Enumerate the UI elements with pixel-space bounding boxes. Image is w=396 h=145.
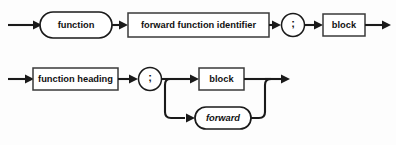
branch-split-rail: [162, 79, 186, 118]
label-block-1: block: [332, 20, 357, 30]
node-forward-function-identifier: forward function identifier: [128, 13, 269, 37]
label-forward-function-identifier: forward function identifier: [141, 20, 257, 30]
entry-arrow-row1: [8, 21, 42, 30]
node-semicolon-2: ;: [139, 68, 162, 91]
label-semicolon-1: ;: [291, 17, 295, 29]
connector-identifier-to-semicolon: [269, 21, 281, 30]
row-forward-declaration: function forward function identifier ;: [8, 12, 391, 38]
label-keyword-function: function: [58, 20, 95, 30]
exit-arrow-row1: [365, 21, 391, 30]
entry-arrow-row2: [8, 75, 34, 84]
branch-upper-block: block: [175, 68, 271, 90]
exit-arrow-row2: [265, 75, 290, 84]
connector-semicolon-to-block: [305, 21, 324, 30]
node-semicolon-1: ;: [282, 14, 305, 37]
label-block-2: block: [209, 74, 234, 84]
node-function-heading: function heading: [33, 68, 118, 90]
label-function-heading: function heading: [38, 74, 113, 84]
railroad-diagram-canvas: function forward function identifier ;: [0, 0, 396, 145]
label-forward: forward: [206, 113, 240, 123]
syntax-diagram: function forward function identifier ;: [0, 0, 396, 145]
connector-heading-to-semicolon: [118, 75, 138, 84]
label-semicolon-2: ;: [148, 71, 152, 83]
row-function-definition: function heading ;: [8, 68, 290, 130]
node-block-1: block: [323, 14, 365, 36]
connector-function-to-identifier: [112, 21, 128, 30]
node-keyword-function: function: [40, 12, 112, 38]
